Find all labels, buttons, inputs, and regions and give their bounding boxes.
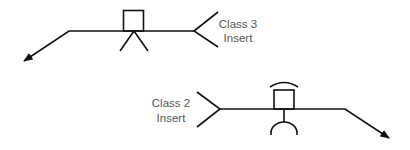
class2-line-with-arrow bbox=[220, 109, 389, 138]
class3-label-line2: Insert bbox=[224, 32, 254, 44]
class2-label-line2: Insert bbox=[157, 112, 187, 124]
class2-square-icon bbox=[274, 90, 294, 109]
class2-symbol bbox=[197, 83, 389, 139]
class2-label-line1: Class 2 bbox=[152, 97, 190, 109]
class3-fork-icon bbox=[194, 12, 218, 47]
class3-square-icon bbox=[124, 11, 144, 32]
class3-right-leg bbox=[134, 31, 148, 51]
class2-cup-arc-icon bbox=[271, 122, 297, 135]
class3-symbol bbox=[24, 11, 218, 62]
class2-fork-icon bbox=[197, 92, 220, 127]
class3-left-leg bbox=[120, 31, 134, 51]
class2-top-arc-icon bbox=[270, 83, 298, 88]
class3-line-with-arrow bbox=[24, 31, 194, 61]
class3-label-line1: Class 3 bbox=[219, 18, 257, 30]
insert-class-diagram: Class 3 Insert Class 2 Insert bbox=[0, 0, 410, 150]
